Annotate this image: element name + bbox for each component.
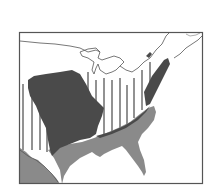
eastern-us-map (0, 0, 213, 193)
